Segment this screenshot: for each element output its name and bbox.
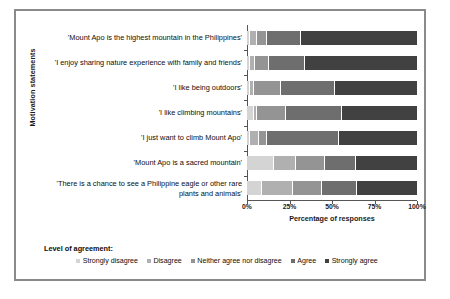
bar-segment <box>250 131 259 145</box>
bar-segment <box>269 56 305 70</box>
x-axis-tick-label: 50% <box>325 203 339 210</box>
plot-region <box>247 25 417 201</box>
chart-area: Motivation statements 'Mount Apo is the … <box>16 11 428 283</box>
category-label: 'Mount Apo is a sacred mountain' <box>38 158 242 168</box>
y-axis-minor-tick <box>244 176 247 177</box>
category-label: 'I enjoy sharing nature experience with … <box>38 58 242 68</box>
legend-label: Strongly agree <box>332 257 378 265</box>
bar-segment <box>267 31 301 45</box>
bar-segment <box>247 106 254 120</box>
y-axis-minor-tick <box>244 75 247 76</box>
legend-swatch-icon <box>291 259 295 263</box>
category-label-list: 'Mount Apo is the highest mountain in th… <box>38 25 242 201</box>
bar-segment <box>257 31 267 45</box>
legend-item[interactable]: Agree <box>291 257 316 265</box>
x-axis-tick-labels: 0%25%50%75%100% <box>247 203 417 213</box>
bar-segment <box>301 31 417 45</box>
legend-label: Strongly disagree <box>83 257 138 265</box>
legend-item-list: Strongly disagreeDisagreeNeither agree n… <box>42 257 412 265</box>
legend-title: Level of agreement: <box>42 244 412 253</box>
bar-segment <box>267 131 338 145</box>
chart-figure-frame: Motivation statements 'Mount Apo is the … <box>14 9 426 281</box>
stacked-bar-row <box>247 31 417 45</box>
y-axis-minor-tick <box>244 151 247 152</box>
x-axis-tick-label: 25% <box>283 203 297 210</box>
y-axis-minor-tick <box>244 100 247 101</box>
legend-item[interactable]: Neither agree nor disagree <box>191 257 282 265</box>
stacked-bar-row <box>247 56 417 70</box>
legend-label: Disagree <box>153 257 181 265</box>
bar-segment <box>357 181 417 195</box>
bar-segment <box>254 81 281 95</box>
stacked-bar-row <box>247 181 417 195</box>
legend-swatch-icon <box>76 259 80 263</box>
bar-segment <box>281 81 335 95</box>
legend-label: Neither agree nor disagree <box>197 257 281 265</box>
stacked-bar-row <box>247 156 417 170</box>
bar-segment <box>255 56 269 70</box>
bar-segment <box>259 131 268 145</box>
chart-legend: Level of agreement: Strongly disagreeDis… <box>42 244 412 265</box>
bar-segment <box>247 181 262 195</box>
x-axis-tick-label: 75% <box>368 203 382 210</box>
bar-segment <box>286 106 342 120</box>
bar-segment <box>250 31 257 45</box>
bar-segment <box>257 106 286 120</box>
category-label: 'I like being outdoors' <box>38 83 242 93</box>
bar-segment <box>342 106 417 120</box>
category-label: 'I like climbing mountains' <box>38 108 242 118</box>
legend-swatch-icon <box>147 259 151 263</box>
x-axis-tick-label: 100% <box>408 203 425 210</box>
bar-segment <box>262 181 293 195</box>
legend-swatch-icon <box>325 259 329 263</box>
legend-item[interactable]: Strongly disagree <box>76 257 138 265</box>
bar-segment <box>274 156 296 170</box>
y-axis-minor-tick <box>244 126 247 127</box>
category-label: 'There is a chance to see a Philippine e… <box>38 179 242 198</box>
stacked-bar-row <box>247 81 417 95</box>
bar-segment <box>293 181 322 195</box>
legend-item[interactable]: Disagree <box>147 257 182 265</box>
bar-segment <box>339 131 417 145</box>
bar-segment <box>335 81 417 95</box>
legend-label: Agree <box>297 257 316 265</box>
bar-segment <box>305 56 417 70</box>
stacked-bar-row <box>247 131 417 145</box>
legend-swatch-icon <box>191 259 195 263</box>
category-label: 'Mount Apo is the highest mountain in th… <box>38 33 242 43</box>
bar-segment <box>356 156 417 170</box>
category-label: 'I just want to climb Mount Apo' <box>38 133 242 143</box>
y-axis-title: Motivation statements <box>28 28 37 148</box>
y-axis-minor-tick <box>244 50 247 51</box>
bar-segment <box>325 156 356 170</box>
x-axis-title: Percentage of responses <box>247 214 417 223</box>
stacked-bar-row <box>247 106 417 120</box>
bar-segment <box>296 156 325 170</box>
x-axis-tick-label: 0% <box>242 203 252 210</box>
bar-segment <box>247 156 274 170</box>
bar-segment <box>322 181 358 195</box>
legend-item[interactable]: Strongly agree <box>325 257 378 265</box>
